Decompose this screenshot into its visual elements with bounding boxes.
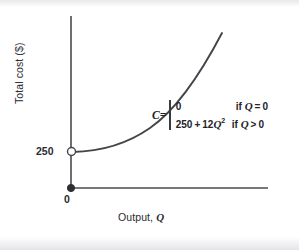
y-tick-label-250: 250 [36, 146, 54, 157]
case-2-exponent: 2 [221, 117, 225, 124]
x-axis-title-variable: Q [156, 211, 164, 223]
case-1-operator: = [253, 101, 263, 112]
equation-left-side: C= [152, 109, 168, 121]
case-2-term-variable: Q2 [213, 118, 225, 130]
equation-variable-c: C [152, 109, 160, 121]
cost-function-figure: Total cost ($) 250 0 Output, Q C= 0 if Q… [0, 0, 299, 250]
x-axis-title-text: Output, [118, 211, 153, 223]
x-axis-title: Output, Q [118, 212, 164, 223]
case-2-value: 0 [258, 119, 264, 130]
x-tick-label-0: 0 [64, 194, 70, 205]
equation-equals-sign: = [160, 109, 167, 121]
equation-brace [169, 100, 171, 130]
filled-dot-marker [67, 184, 74, 191]
case-1-expression: 0 [176, 101, 232, 112]
case-2-if: if [232, 119, 238, 130]
y-axis-title: Total cost ($) [14, 28, 25, 118]
equation-case-row-2: 250+12Q2 if Q>0 [176, 117, 268, 130]
equation-case-row-1: 0 if Q=0 [176, 100, 268, 112]
case-1-variable: Q [245, 100, 253, 112]
total-cost-curve [73, 33, 223, 152]
case-1-condition: if Q=0 [232, 100, 268, 112]
case-2-expression: 250+12Q2 [176, 117, 232, 130]
case-1-value: 0 [262, 101, 268, 112]
equation-cases: 0 if Q=0 250+12Q2 if Q>0 [176, 100, 268, 130]
case-2-variable: Q [241, 118, 249, 130]
case-1-if: if [236, 101, 242, 112]
open-circle-marker [68, 148, 76, 156]
case-2-plus: + [192, 119, 202, 130]
case-2-term-coefficient: 12 [202, 119, 213, 130]
cost-equation: C= 0 if Q=0 250+12Q2 if Q>0 [152, 100, 268, 130]
case-2-operator: > [249, 119, 259, 130]
case-2-fixed-cost: 250 [176, 119, 193, 130]
case-2-condition: if Q>0 [232, 118, 264, 130]
